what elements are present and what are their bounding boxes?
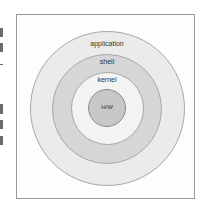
left-edge-mark-1	[0, 28, 3, 37]
hw-label: H/W	[57, 104, 157, 110]
left-edge-mark-6	[0, 136, 3, 145]
left-edge-mark-4	[0, 104, 3, 114]
application-label: application	[57, 40, 157, 47]
shell-label: shell	[57, 58, 157, 65]
left-edge-mark-5	[0, 120, 3, 129]
kernel-label: kernel	[57, 76, 157, 83]
left-edge-mark-2	[0, 43, 3, 52]
left-edge-mark-3	[0, 64, 3, 65]
